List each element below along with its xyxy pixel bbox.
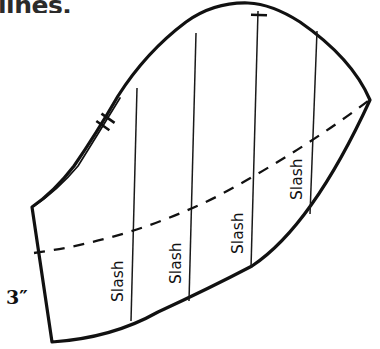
pattern-piece-outline [32,3,370,342]
slash-label-4: Slash [288,158,306,200]
single-notch-icon [251,15,267,16]
dimension-label-3-inch: 3″ [6,286,28,308]
pattern-diagram-svg: Slash Slash Slash Slash [0,0,380,349]
slash-label-2: Slash [167,242,185,284]
figure-container: lines. Slash Slash Slash Slash 3″ [0,0,380,349]
slash-label-1: Slash [109,260,127,302]
slash-label-3: Slash [229,212,247,254]
